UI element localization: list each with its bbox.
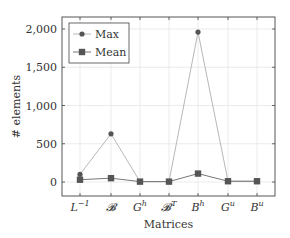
- legend-marker-square-icon: [79, 49, 85, 55]
- x-tick-label: Gh: [133, 199, 147, 214]
- data-point-max: [108, 131, 113, 136]
- x-tick-label: Gu: [221, 199, 235, 214]
- data-point-mean: [166, 178, 172, 184]
- x-tick-label: Bh: [190, 199, 204, 214]
- legend-label: Mean: [95, 46, 126, 59]
- y-tick-label: 2,000: [26, 23, 58, 36]
- y-tick-label: 0: [50, 176, 57, 189]
- line-chart: 05001,0001,5002,000 L−1𝓑Gh𝓑TBhGuBu Matri…: [0, 0, 290, 238]
- legend-label: Max: [95, 28, 120, 41]
- data-point-mean: [195, 170, 201, 176]
- x-tick-label: Bu: [249, 199, 263, 214]
- data-point-max: [77, 172, 82, 177]
- x-tick-label: 𝓑T: [161, 199, 177, 214]
- y-tick-label: 500: [36, 138, 57, 151]
- x-tick-label: 𝓑: [106, 201, 118, 214]
- data-point-mean: [77, 177, 83, 183]
- y-axis-ticks: 05001,0001,5002,000: [26, 23, 276, 189]
- legend: MaxMean: [69, 23, 129, 63]
- legend-marker-circle-icon: [79, 31, 84, 36]
- x-tick-label: L−1: [69, 199, 89, 214]
- data-point-mean: [225, 178, 231, 184]
- data-point-mean: [137, 178, 143, 184]
- data-point-mean: [108, 175, 114, 181]
- data-point-max: [195, 29, 200, 34]
- y-tick-label: 1,500: [26, 61, 58, 74]
- y-tick-label: 1,000: [26, 100, 58, 113]
- data-point-mean: [254, 178, 260, 184]
- x-axis-label: Matrices: [144, 218, 194, 231]
- y-axis-label: # elements: [10, 74, 23, 138]
